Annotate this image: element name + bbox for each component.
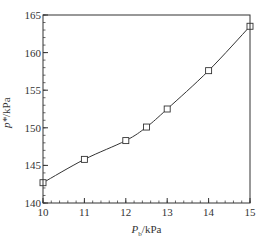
x-tick-label: 15 [245, 206, 257, 218]
x-tick-labels: 101112131415 [38, 206, 257, 218]
minor-ticks [43, 15, 250, 203]
y-tick-label: 145 [25, 159, 42, 171]
x-tick-label: 13 [162, 206, 174, 218]
y-tick-label: 140 [25, 197, 42, 209]
y-tick-label: 160 [25, 47, 42, 59]
x-axis-unit: /kPa [142, 223, 162, 235]
y-tick-label: 150 [25, 122, 42, 134]
major-ticks [43, 15, 250, 203]
y-tick-labels: 140145150155160165 [25, 9, 42, 209]
square-marker [164, 106, 170, 112]
y-axis-unit: /kPa [0, 97, 12, 117]
square-marker [144, 124, 150, 130]
plot-frame [43, 15, 250, 203]
square-marker [206, 68, 212, 74]
x-tick-label: 12 [120, 206, 131, 218]
square-marker [123, 138, 129, 144]
x-tick-label: 11 [79, 206, 90, 218]
y-axis-symbol: p* [0, 117, 12, 130]
y-tick-label: 165 [25, 9, 42, 21]
square-marker [81, 156, 87, 162]
y-axis-label: p*/kPa [0, 97, 12, 129]
x-tick-label: 14 [203, 206, 215, 218]
y-tick-label: 155 [25, 84, 42, 96]
data-series [40, 23, 253, 185]
line-chart: 101112131415 140145150155160165 Pb/kPa p… [0, 0, 263, 240]
series-line [43, 26, 250, 182]
x-axis-label: Pb/kPa [131, 223, 162, 238]
